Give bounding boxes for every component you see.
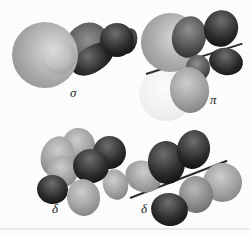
delta-orbital-right: δ — [0, 0, 250, 237]
page-edge-rule — [0, 228, 250, 230]
orbital-figure-canvas: σ π δ δ — [0, 0, 250, 237]
delta-right-label: δ — [141, 202, 147, 215]
